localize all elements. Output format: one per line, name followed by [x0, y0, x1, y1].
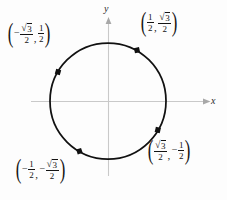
q2-x-sign: − — [14, 28, 20, 39]
radical-icon: √ 3 — [155, 140, 166, 151]
q4-comma: , — [168, 150, 171, 162]
paren-left-icon: ( — [16, 159, 22, 180]
q3-x-term: − 1 2 — [22, 160, 35, 180]
unit-circle-figure: y x ( − √ 3 2 , 1 2 ) ( — [0, 0, 227, 200]
q3-x-fraction: 1 2 — [28, 160, 35, 180]
radical-sign: √ — [21, 23, 27, 34]
coordinate-label-quadrant-3: ( − 1 2 , − √ 3 2 ) — [14, 159, 67, 181]
q2-comma: , — [34, 33, 37, 45]
coordinate-label-quadrant-4: ( √ 3 2 , − 1 2 ) — [146, 140, 192, 162]
radical-sign: √ — [159, 12, 165, 23]
q1-comma: , — [154, 22, 157, 34]
q4-y-term: − 1 2 — [172, 141, 185, 161]
q3-y-denominator: 2 — [46, 170, 59, 181]
coordinate-label-quadrant-1: ( 1 2 , √ 3 2 ) — [139, 12, 179, 34]
y-axis-arrowhead — [106, 17, 112, 24]
q3-y-fraction: √ 3 2 — [46, 159, 59, 181]
q2-y-numerator: 1 — [38, 24, 45, 34]
radical-icon: √ 3 — [159, 12, 170, 23]
q1-y-radicand: 3 — [165, 12, 171, 23]
q1-x-fraction: 1 2 — [147, 13, 154, 33]
q2-x-term: − √ 3 2 — [14, 23, 33, 45]
q1-y-denominator: 2 — [158, 23, 171, 34]
coordinate-label-quadrant-2: ( − √ 3 2 , 1 2 ) — [6, 23, 52, 45]
x-axis-arrowhead — [203, 99, 211, 105]
q3-x-numerator: 1 — [28, 160, 35, 170]
q3-y-numerator: √ 3 — [46, 159, 59, 170]
q2-x-radicand: 3 — [27, 23, 33, 34]
q4-x-term: √ 3 2 — [154, 140, 167, 162]
q4-x-numerator: √ 3 — [154, 140, 167, 151]
y-axis-label: y — [104, 4, 108, 14]
paren-right-icon: ) — [59, 159, 65, 180]
paren-right-icon: ) — [45, 23, 51, 44]
q2-y-term: 1 2 — [38, 24, 45, 44]
q3-x-denominator: 2 — [28, 169, 35, 180]
q3-y-sign: − — [39, 164, 45, 175]
q1-y-term: √ 3 2 — [158, 12, 171, 34]
q3-y-radicand: 3 — [52, 159, 58, 170]
q2-x-denominator: 2 — [20, 34, 33, 45]
q1-x-numerator: 1 — [147, 13, 154, 23]
q1-y-numerator: √ 3 — [158, 12, 171, 23]
radical-icon: √ 3 — [21, 23, 32, 34]
q3-x-sign: − — [22, 164, 28, 175]
paren-left-icon: ( — [148, 140, 154, 161]
radical-sign: √ — [47, 159, 53, 170]
q1-x-term: 1 2 — [147, 13, 154, 33]
q4-y-sign: − — [172, 145, 178, 156]
q1-y-fraction: √ 3 2 — [158, 12, 171, 34]
paren-left-icon: ( — [8, 23, 14, 44]
paren-right-icon: ) — [185, 140, 191, 161]
q2-x-fraction: √ 3 2 — [20, 23, 33, 45]
paren-left-icon: ( — [141, 12, 147, 33]
q2-y-fraction: 1 2 — [38, 24, 45, 44]
radical-icon: √ 3 — [47, 159, 58, 170]
q1-x-denominator: 2 — [147, 22, 154, 33]
q4-x-fraction: √ 3 2 — [154, 140, 167, 162]
paren-right-icon: ) — [172, 12, 178, 33]
q4-y-fraction: 1 2 — [178, 141, 185, 161]
radical-sign: √ — [155, 140, 161, 151]
q3-y-term: − √ 3 2 — [39, 159, 58, 181]
q4-x-denominator: 2 — [154, 151, 167, 162]
q3-comma: , — [35, 169, 38, 181]
x-axis-label: x — [211, 96, 215, 106]
q2-y-denominator: 2 — [38, 33, 45, 44]
q2-x-numerator: √ 3 — [20, 23, 33, 34]
point-marker-60deg — [134, 47, 140, 53]
q4-x-radicand: 3 — [161, 140, 167, 151]
q4-y-denominator: 2 — [178, 150, 185, 161]
q4-y-numerator: 1 — [178, 141, 185, 151]
